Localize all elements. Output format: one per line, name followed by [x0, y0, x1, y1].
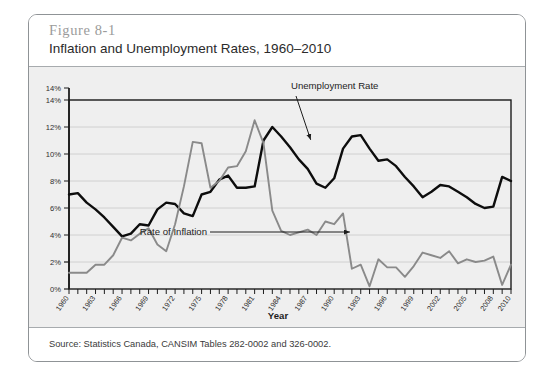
x-tick-label: 2002: [425, 294, 442, 313]
figure-card: Figure 8-1 Inflation and Unemployment Ra…: [28, 14, 526, 362]
y-tick-label: 14%: [46, 96, 61, 105]
annotation-rate-of-inflation: Rate of Inflation: [140, 226, 207, 237]
y-axis-ticks: 0%2%4%6%8%10%12%14%14%: [46, 84, 69, 294]
y-tick-label: 0%: [50, 285, 61, 294]
x-axis-title: Year: [268, 310, 289, 321]
x-tick-label: 1993: [346, 294, 363, 313]
chart-plot-area: 0%2%4%6%8%10%12%14%14% 19601963196619691…: [29, 67, 525, 329]
figure-number: Figure 8-1: [49, 22, 525, 39]
x-tick-label: 1996: [372, 294, 389, 313]
source-text: Source: Statistics Canada, CANSIM Tables…: [49, 339, 331, 349]
x-tick-label: 1966: [107, 294, 124, 313]
x-tick-label: 2008: [478, 294, 495, 313]
series-line-unemployment-rate: [69, 127, 511, 236]
x-tick-label: 1987: [293, 294, 310, 313]
y-tick-label: 2%: [50, 258, 61, 267]
x-tick-label: 1981: [239, 294, 256, 313]
x-tick-label: 1969: [133, 294, 150, 313]
x-tick-label: 1990: [319, 294, 336, 313]
x-tick-label: 1975: [186, 294, 203, 313]
x-tick-label: 2010: [496, 294, 513, 313]
x-tick-label: 1972: [160, 294, 177, 313]
figure-header: Figure 8-1 Inflation and Unemployment Ra…: [29, 15, 525, 67]
y-tick-label: 12%: [46, 123, 61, 132]
series-line-rate-of-inflation: [69, 120, 511, 286]
y-tick-label: 14%: [46, 84, 61, 93]
annotation-leader-unemployment: [296, 96, 311, 140]
x-tick-label: 2005: [452, 294, 469, 313]
annotation-unemployment-rate: Unemployment Rate: [291, 80, 378, 91]
y-tick-label: 6%: [50, 204, 61, 213]
y-tick-label: 8%: [50, 177, 61, 186]
y-tick-label: 10%: [46, 150, 61, 159]
plot-frame: [69, 100, 511, 289]
x-tick-label: 1999: [399, 294, 416, 313]
x-tick-label: 1960: [54, 294, 71, 313]
data-series: [69, 120, 511, 286]
figure-title: Inflation and Unemployment Rates, 1960–2…: [49, 39, 525, 59]
inflation-unemployment-line-chart: 0%2%4%6%8%10%12%14%14% 19601963196619691…: [29, 67, 526, 329]
source-bar: Source: Statistics Canada, CANSIM Tables…: [29, 327, 525, 361]
x-tick-label: 1978: [213, 294, 230, 313]
x-tick-label: 1963: [80, 294, 97, 313]
y-tick-label: 4%: [50, 231, 61, 240]
